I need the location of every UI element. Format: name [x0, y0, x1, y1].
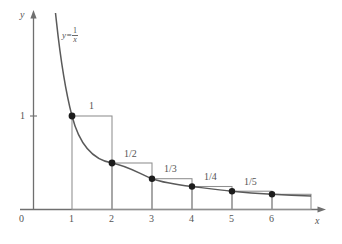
curve-equation-denominator: x: [72, 36, 78, 44]
x-tick-label-5: 5: [229, 214, 234, 224]
rectangle-area-label-2: 1/2: [124, 149, 137, 159]
plot-canvas: [0, 0, 342, 244]
rectangle-area-label-1: 1: [89, 101, 94, 111]
x-axis-arrowhead: [318, 206, 327, 212]
y-tick-label-1: 1: [20, 111, 25, 121]
x-tick-label-3: 3: [149, 214, 154, 224]
rectangle-area-label-5: 1/5: [244, 177, 257, 187]
data-point-5: [229, 188, 235, 194]
rectangle-area-label-4: 1/4: [204, 172, 217, 182]
x-axis-label: x: [315, 216, 319, 226]
harmonic-series-figure: y x 0 1 1 2 3 4 5 6 1 1/2 1/3 1/4 1/5 y=…: [0, 0, 342, 244]
rectangle-1: [72, 116, 112, 210]
data-point-6: [269, 191, 275, 197]
rectangle-1-6: [272, 194, 311, 209]
origin-label: 0: [19, 214, 24, 224]
curve-equation-fraction: 1 x: [72, 27, 78, 45]
data-point-1: [69, 113, 76, 120]
x-tick-label-4: 4: [189, 214, 194, 224]
x-tick-label-1: 1: [69, 214, 74, 224]
data-point-4: [189, 183, 195, 189]
x-tick-label-2: 2: [109, 214, 114, 224]
x-tick-label-6: 6: [269, 214, 274, 224]
data-point-3: [149, 176, 155, 182]
curve-equation-label: y= 1 x: [62, 27, 78, 45]
y-axis-arrowhead: [30, 10, 36, 19]
rectangle-area-label-3: 1/3: [164, 164, 177, 174]
data-point-2: [109, 160, 116, 167]
y-axis-label: y: [20, 10, 24, 20]
curve-equation-lead: y=: [62, 31, 72, 40]
